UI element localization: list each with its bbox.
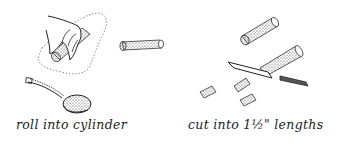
- cut-pieces-icon: [200, 78, 256, 106]
- spoon-icon: [26, 78, 91, 113]
- panel-roll-into-cylinder: roll into cylinder: [0, 0, 175, 150]
- dough-cylinder-icon: [120, 40, 164, 51]
- dough-roll-whole-icon: [239, 16, 280, 46]
- caption-roll: roll into cylinder: [16, 117, 127, 132]
- caption-cut: cut into 1½" lengths: [188, 117, 323, 132]
